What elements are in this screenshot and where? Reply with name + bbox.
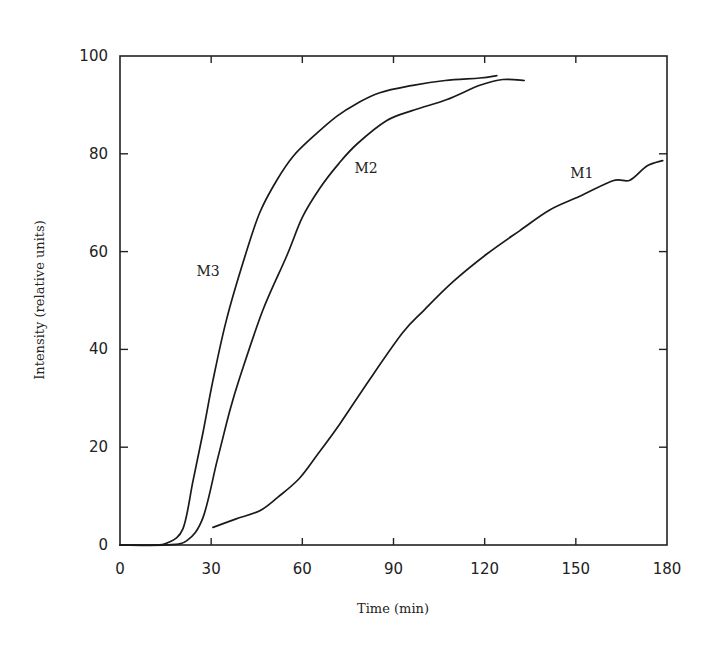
plot-frame xyxy=(120,56,667,545)
x-axis-title: Time (min) xyxy=(357,601,429,616)
series-curves xyxy=(120,76,663,546)
axis-ticks: 0306090120150180020406080100 xyxy=(79,47,681,578)
intensity-time-chart: 0306090120150180020406080100 M3M2M1 Time… xyxy=(0,0,728,654)
curve-m2 xyxy=(120,79,524,545)
y-axis-title: Intensity (relative units) xyxy=(32,220,47,380)
x-tick-label: 0 xyxy=(115,560,125,578)
plot-border xyxy=(120,56,667,545)
x-tick-label: 60 xyxy=(293,560,312,578)
x-tick-label: 150 xyxy=(562,560,591,578)
curve-m1 xyxy=(213,161,663,528)
y-tick-label: 20 xyxy=(89,438,108,456)
y-tick-label: 40 xyxy=(89,340,108,358)
y-tick-label: 0 xyxy=(98,536,108,554)
y-tick-label: 80 xyxy=(89,145,108,163)
x-tick-label: 30 xyxy=(202,560,221,578)
x-tick-label: 90 xyxy=(384,560,403,578)
series-label-m2: M2 xyxy=(355,160,378,176)
x-tick-label: 120 xyxy=(470,560,499,578)
series-label-m3: M3 xyxy=(197,263,220,279)
x-tick-label: 180 xyxy=(653,560,682,578)
y-tick-label: 60 xyxy=(89,243,108,261)
y-tick-label: 100 xyxy=(79,47,108,65)
series-label-m1: M1 xyxy=(570,165,593,181)
curve-m3 xyxy=(120,76,497,546)
